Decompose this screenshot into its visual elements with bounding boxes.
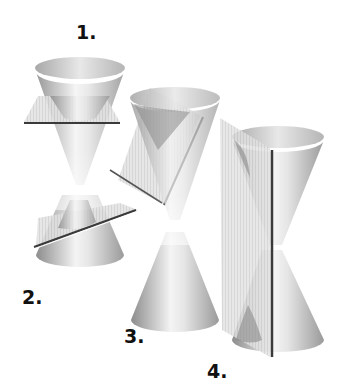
- diagram-graphics: [0, 0, 349, 390]
- figure-label-4: 4.: [207, 362, 227, 381]
- figure-3-lower-cone: [131, 232, 219, 332]
- conic-sections-diagram: 1. 2. 3. 4.: [0, 0, 349, 390]
- figure-label-3: 3.: [124, 327, 144, 346]
- figure-1-top-rim: [35, 57, 125, 79]
- figure-4: [220, 118, 324, 357]
- figure-label-2: 2.: [22, 288, 42, 307]
- figure-label-1: 1.: [76, 23, 96, 42]
